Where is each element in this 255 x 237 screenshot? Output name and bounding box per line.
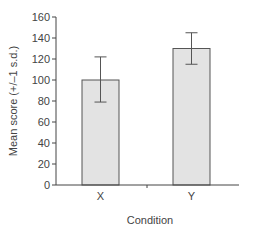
bars bbox=[82, 33, 210, 185]
y-axis-title: Mean score (+/–1 s.d.) bbox=[7, 46, 19, 156]
x-axis-title: Condition bbox=[127, 214, 173, 226]
y-tick-label: 20 bbox=[38, 158, 50, 170]
y-tick-label: 140 bbox=[32, 32, 50, 44]
y-tick-label: 80 bbox=[38, 95, 50, 107]
y-tick-label: 40 bbox=[38, 137, 50, 149]
y-axis-ticks: 020406080100120140160 bbox=[32, 11, 56, 191]
y-tick-label: 60 bbox=[38, 116, 50, 128]
y-tick-label: 100 bbox=[32, 74, 50, 86]
x-tick-label: X bbox=[97, 190, 105, 202]
y-tick-label: 120 bbox=[32, 53, 50, 65]
y-tick-label: 0 bbox=[44, 179, 50, 191]
bar-y bbox=[173, 49, 210, 186]
x-tick-label: Y bbox=[188, 190, 196, 202]
x-axis-tick-labels: XY bbox=[97, 190, 196, 202]
bar-chart: 020406080100120140160 XY Condition Mean … bbox=[0, 0, 255, 237]
y-tick-label: 160 bbox=[32, 11, 50, 23]
